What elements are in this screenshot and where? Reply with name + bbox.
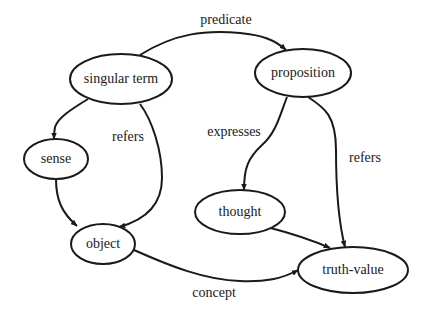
- node-sense-label: sense: [41, 151, 71, 166]
- node-singular-term: singular term: [70, 54, 172, 104]
- edge-predicate-arrow: [140, 32, 286, 55]
- edge-thought-to-truth-value-arrow: [267, 227, 330, 248]
- node-object-label: object: [86, 236, 120, 251]
- edge-label-predicate: predicate: [200, 12, 251, 27]
- node-object: object: [71, 224, 135, 264]
- edge-concept-arrow: [134, 250, 298, 281]
- edge-label-refers-left: refers: [112, 129, 144, 144]
- node-proposition: proposition: [255, 49, 351, 97]
- node-sense: sense: [24, 139, 88, 179]
- edge-singular-term-to-sense-arrow: [54, 99, 88, 139]
- edge-refers-right-arrow: [308, 97, 345, 247]
- edge-expresses-arrow: [244, 97, 287, 190]
- node-thought: thought: [195, 190, 285, 234]
- node-proposition-label: proposition: [271, 65, 335, 80]
- edge-label-expresses: expresses: [207, 124, 261, 139]
- node-thought-label: thought: [219, 204, 262, 219]
- node-truth-value-label: truth-value: [322, 262, 383, 277]
- node-singular-term-label: singular term: [84, 71, 158, 86]
- edge-refers-left-arrow: [119, 104, 162, 227]
- edge-label-refers-right: refers: [349, 150, 381, 165]
- edge-sense-to-object-arrow: [56, 179, 77, 226]
- concept-diagram: predicate refers expresses refers concep…: [0, 0, 430, 317]
- node-truth-value: truth-value: [298, 247, 408, 293]
- edge-label-concept: concept: [192, 285, 236, 300]
